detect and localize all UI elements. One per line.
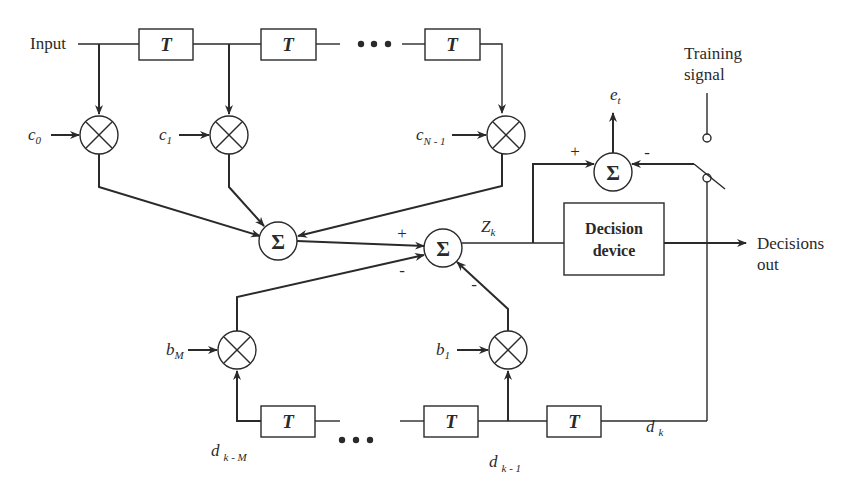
delay-block-label: T: [282, 411, 295, 432]
summer-main: Σ: [424, 229, 462, 267]
coef-c1: c1: [159, 125, 209, 146]
svg-text:bM: bM: [166, 340, 185, 361]
tap-dk: dk: [646, 417, 665, 438]
delay-block-label: T: [446, 34, 459, 55]
decisions-out-label: Decisions: [757, 234, 824, 253]
svg-text:device: device: [593, 242, 636, 259]
delay-block-fb-3: T: [547, 406, 601, 437]
delay-block-label: T: [568, 411, 581, 432]
delay-block-fb-2: T: [424, 406, 478, 437]
delay-block-label: T: [160, 34, 173, 55]
training-signal-label: Training: [684, 44, 742, 63]
decisions-out-label-2: out: [757, 255, 779, 274]
tap-dk-1: dk - 1: [489, 452, 521, 474]
coef-b1: b1: [436, 340, 488, 361]
coef-cn-1: cN - 1: [416, 125, 486, 147]
delay-block-label: T: [445, 411, 458, 432]
coef-bm: bM: [166, 340, 217, 361]
svg-text:Σ: Σ: [606, 161, 620, 185]
delay-block-ff-2: T: [261, 29, 316, 60]
delay-block-label: T: [282, 34, 295, 55]
main-minus-left-sign: -: [399, 261, 405, 280]
delay-block-ff-1: T: [139, 29, 193, 60]
coef-c0: c0: [28, 125, 79, 146]
delay-block-fb-1: T: [261, 406, 315, 437]
multiplier-b1: [489, 331, 527, 369]
error-plus-sign: +: [570, 142, 580, 161]
tap-dk-m: dk - M: [211, 441, 248, 463]
svg-text:c0: c0: [28, 125, 42, 146]
error-minus-sign: -: [644, 143, 650, 162]
error-label: et: [610, 85, 622, 106]
multiplier-cn-1: [487, 116, 525, 154]
ellipsis-fb: [339, 437, 373, 443]
multiplier-c0: [80, 116, 118, 154]
multiplier-c1: [210, 116, 248, 154]
ellipsis-ff: [358, 41, 391, 47]
zk-label: Zk: [481, 217, 496, 238]
summer-feedforward: Σ: [259, 222, 297, 260]
decision-device-block: Decision device: [564, 203, 664, 275]
svg-text:Σ: Σ: [436, 237, 450, 261]
main-plus-sign: +: [397, 224, 407, 243]
summer-error: Σ: [594, 153, 632, 191]
multiplier-bm: [218, 331, 256, 369]
training-signal-label-2: signal: [684, 65, 725, 84]
svg-text:b1: b1: [436, 340, 450, 361]
svg-text:Σ: Σ: [271, 230, 285, 254]
svg-text:cN - 1: cN - 1: [416, 125, 446, 147]
svg-text:Decision: Decision: [585, 220, 643, 237]
delay-block-ff-3: T: [425, 29, 480, 60]
svg-text:c1: c1: [159, 125, 172, 146]
input-label: Input: [30, 34, 66, 53]
dfe-block-diagram: Input T T T c0 c1: [0, 0, 851, 489]
